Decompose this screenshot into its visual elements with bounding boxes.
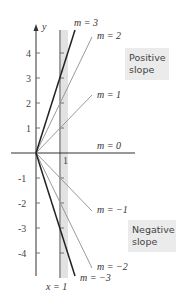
label-x-equals-1: x = 1 [45,281,67,292]
y-tick-2: 2 [26,98,31,109]
y-tick-neg1: -1 [18,173,26,184]
line-slope-3 [36,30,75,153]
positive-slope-line2: slope [129,64,165,76]
positive-slope-box: Positive slope [125,48,169,80]
negative-slope-line1: Negative [132,224,172,236]
y-axis-label: y [41,21,47,32]
y-tick-neg3: -3 [18,223,26,234]
label-mneg2: m = −2 [97,261,128,272]
negative-slope-line2: slope [132,236,172,248]
label-m3: m = 3 [74,17,98,28]
positive-slope-line1: Positive [129,52,165,64]
y-tick-4: 4 [26,48,31,59]
y-tick-1: 1 [26,123,31,134]
label-m1: m = 1 [97,89,121,100]
negative-slope-box: Negative slope [128,220,176,252]
line-slope-neg3 [36,153,75,276]
x-tick-1: 1 [63,155,68,166]
y-tick-neg2: -2 [18,198,26,209]
y-tick-neg4: -4 [18,248,26,259]
label-m2: m = 2 [97,30,121,41]
y-axis-arrow-icon [34,24,39,31]
label-mneg3: m = −3 [80,272,111,283]
y-tick-3: 3 [26,73,31,84]
label-mneg1: m = −1 [97,204,128,215]
label-m0: m = 0 [97,140,121,151]
